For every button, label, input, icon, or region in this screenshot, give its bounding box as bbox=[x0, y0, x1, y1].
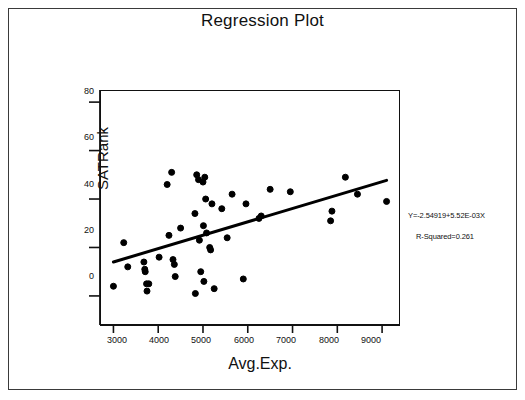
y-axis-title: SATRank bbox=[94, 114, 111, 204]
y-tick-label-40: 40 bbox=[68, 179, 94, 189]
regression-plot-screenshot: Regression Plot 80 60 40 20 0 3000 4000 … bbox=[0, 0, 525, 400]
x-axis-title: Avg.Exp. bbox=[190, 355, 330, 373]
y-tick-label-0: 0 bbox=[68, 271, 94, 281]
regression-equation-annotation: Y=-2.54919+5.52E-03X bbox=[408, 211, 485, 220]
y-tick-label-20: 20 bbox=[68, 225, 94, 235]
x-tick-label-5000: 5000 bbox=[181, 335, 221, 345]
x-tick-label-8000: 8000 bbox=[309, 335, 349, 345]
y-tick-label-80: 80 bbox=[68, 86, 94, 96]
r-squared-annotation: R-Squared=0.261 bbox=[416, 232, 474, 241]
x-tick-label-9000: 9000 bbox=[351, 335, 391, 345]
x-tick-label-6000: 6000 bbox=[224, 335, 264, 345]
page-title: Regression Plot bbox=[0, 11, 525, 31]
x-tick-label-4000: 4000 bbox=[139, 335, 179, 345]
plot-area-frame bbox=[100, 90, 400, 325]
x-tick-label-3000: 3000 bbox=[97, 335, 137, 345]
x-tick-label-7000: 7000 bbox=[266, 335, 306, 345]
y-tick-label-60: 60 bbox=[68, 132, 94, 142]
